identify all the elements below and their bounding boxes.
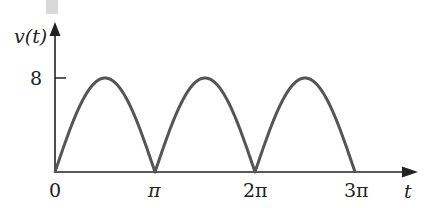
y-axis-arrow-icon	[50, 22, 61, 36]
y-axis-label: v(t)	[14, 25, 47, 47]
y-tick-label-8: 8	[30, 67, 42, 89]
x-tick-label-2pi: 2π	[243, 179, 268, 201]
rectified-sine-curve	[55, 78, 355, 172]
x-tick-label-0: 0	[49, 179, 61, 201]
x-axis-arrow-icon	[402, 167, 418, 178]
chart: v(t) 8 0 π 2π 3π t	[0, 0, 433, 208]
x-tick-label-3pi: 3π	[344, 179, 369, 201]
x-tick-label-pi: π	[147, 179, 161, 201]
x-axis-label: t	[404, 180, 412, 202]
